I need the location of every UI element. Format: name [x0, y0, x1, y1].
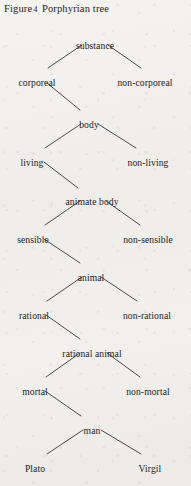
- tree-node-virgil: Virgil: [139, 463, 162, 474]
- tree-node-living: living: [21, 157, 44, 168]
- tree-node-sensible: sensible: [17, 234, 49, 245]
- tree-edge-body-to-living: [45, 124, 81, 148]
- tree-node-mortal: mortal: [22, 386, 48, 397]
- tree-node-animal: animal: [78, 272, 105, 283]
- tree-edge-man-to-virgil: [101, 430, 141, 454]
- tree-node-non-mortal: non-mortal: [126, 386, 170, 397]
- tree-node-non-sensible: non-sensible: [123, 234, 173, 245]
- tree-edge-rational-to-rational-animal: [46, 315, 80, 339]
- tree-edge-mortal-to-man: [45, 391, 81, 416]
- figure-page: Figure4Porphyrian tree substancecorporea…: [0, 0, 191, 486]
- tree-node-non-corporeal: non-corporeal: [117, 77, 172, 88]
- tree-node-corporeal: corporeal: [18, 77, 55, 88]
- tree-node-non-living: non-living: [128, 157, 169, 168]
- tree-node-man: man: [84, 425, 101, 436]
- tree-node-substance: substance: [76, 40, 114, 51]
- tree-node-plato: Plato: [25, 463, 45, 474]
- tree-node-body: body: [79, 119, 99, 130]
- tree-edge-living-to-animate-body: [44, 162, 78, 188]
- tree-node-non-rational: non-rational: [123, 310, 171, 321]
- tree-edge-man-to-plato: [47, 430, 83, 454]
- tree-edge-animal-to-non-rational: [101, 277, 137, 301]
- tree-edge-body-to-non-living: [98, 124, 136, 148]
- tree-edge-sensible-to-animal: [44, 239, 80, 263]
- tree-node-rational: rational: [19, 310, 49, 321]
- tree-node-rational-animal: rational animal: [62, 348, 121, 359]
- tree-node-animate-body: animate body: [65, 196, 118, 207]
